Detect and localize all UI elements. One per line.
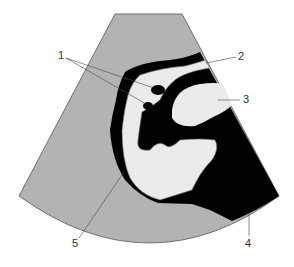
label-1: 1 — [58, 50, 64, 61]
leader-line-2 — [206, 57, 236, 63]
ultrasound-diagram — [0, 0, 294, 267]
label-3: 3 — [243, 94, 249, 105]
dark-blob-upper — [151, 85, 165, 95]
label-2: 2 — [238, 51, 244, 62]
label-4: 4 — [245, 238, 251, 249]
label-5: 5 — [72, 238, 78, 249]
